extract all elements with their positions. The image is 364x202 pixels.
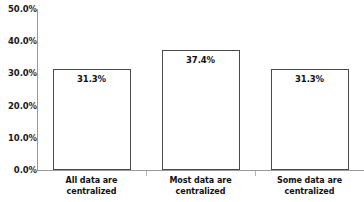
y-axis: 0.0%10.0%20.0%30.0%40.0%50.0% bbox=[0, 0, 37, 202]
bar-group: 37.4% bbox=[146, 9, 255, 170]
x-axis-category-label-line: centralized bbox=[146, 186, 255, 197]
x-axis-category-label-line: Most data are bbox=[146, 175, 255, 186]
x-axis-category-label-line: All data are bbox=[37, 175, 146, 186]
bar-group: 31.3% bbox=[37, 9, 146, 170]
bar-value-label: 31.3% bbox=[54, 74, 130, 84]
plot-area: 31.3%37.4%31.3% bbox=[37, 9, 364, 170]
bar-chart: 0.0%10.0%20.0%30.0%40.0%50.0% 31.3%37.4%… bbox=[0, 0, 364, 202]
bar[interactable]: 37.4% bbox=[162, 50, 240, 170]
x-axis-separator-tick bbox=[146, 171, 147, 176]
x-axis-line bbox=[37, 170, 364, 171]
bar-value-label: 37.4% bbox=[163, 55, 239, 65]
x-axis-category-label-line: centralized bbox=[255, 186, 364, 197]
x-axis-category-label-line: Some data are bbox=[255, 175, 364, 186]
x-axis-category-label: Most data arecentralized bbox=[146, 175, 255, 197]
x-axis-separator-tick bbox=[255, 171, 256, 176]
x-axis-category-label-line: centralized bbox=[37, 186, 146, 197]
bar[interactable]: 31.3% bbox=[53, 69, 131, 170]
x-axis-category-label: Some data arecentralized bbox=[255, 175, 364, 197]
bar-group: 31.3% bbox=[255, 9, 364, 170]
bar-value-label: 31.3% bbox=[272, 74, 348, 84]
bar[interactable]: 31.3% bbox=[271, 69, 349, 170]
x-axis-category-label: All data arecentralized bbox=[37, 175, 146, 197]
